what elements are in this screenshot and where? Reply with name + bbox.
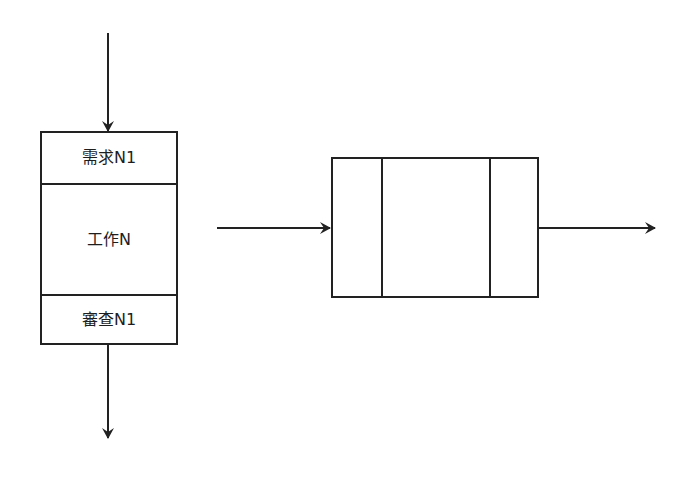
requirement-section-label: 需求N1 — [41, 148, 177, 168]
work-section-label: 工作N — [41, 230, 177, 250]
review-section-label: 審查N1 — [41, 310, 177, 330]
right-block — [332, 158, 538, 297]
right-block-frame — [332, 158, 538, 297]
